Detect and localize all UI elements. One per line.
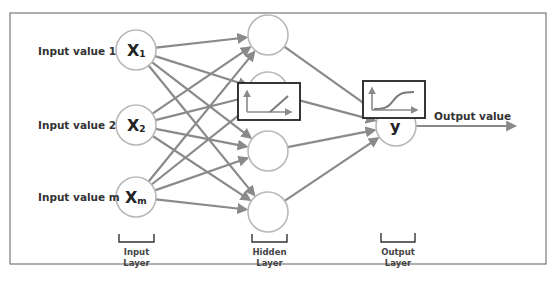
input-node-subscript: m [137, 196, 146, 206]
output-value-label: Output value [434, 110, 511, 122]
output-node-symbol: y [390, 117, 401, 136]
hidden-layer-bracket [252, 234, 287, 242]
input-label-2: Input value 2 [38, 119, 116, 131]
connection-input-1-hidden-1 [156, 38, 246, 48]
connection-hidden-3-output [288, 130, 375, 147]
connection-input-3-hidden-3 [155, 158, 247, 190]
input-layer-bracket [119, 234, 154, 242]
hidden-node-3 [248, 131, 288, 171]
output-layer-bracket [381, 233, 415, 242]
input-node-subscript: 2 [139, 124, 145, 134]
input-node-2: X2 [116, 105, 156, 145]
input-label-1: Input value 1 [38, 45, 116, 57]
connection-hidden-4-output [285, 138, 378, 201]
hidden-layer-label-2: Layer [256, 258, 283, 268]
rectifier-icon [238, 83, 300, 120]
output-layer-label-1: Output [381, 247, 415, 257]
input-node-1: X1 [116, 30, 156, 70]
hidden-layer-label-1: Hidden [252, 247, 286, 257]
input-layer-label-1: Input [124, 247, 149, 257]
neural-network-diagram: X1 X2 Xm Input value 1 Input value 2 Inp… [0, 0, 558, 281]
connection-input-3-hidden-4 [156, 199, 246, 209]
input-node-m: Xm [116, 177, 156, 217]
input-node-symbol: X [127, 116, 140, 135]
hidden-layer [248, 15, 288, 232]
hidden-node-4 [248, 192, 288, 232]
input-label-m: Input value m [38, 191, 120, 203]
output-layer-label-2: Layer [385, 258, 412, 268]
input-node-subscript: 1 [139, 49, 145, 59]
input-node-symbol: X [127, 41, 140, 60]
input-layer-label-2: Layer [123, 258, 150, 268]
hidden-node-1 [248, 15, 288, 55]
input-layer: X1 X2 Xm [116, 30, 156, 217]
connections [149, 38, 379, 210]
input-node-symbol: X [125, 188, 138, 207]
sigmoid-icon [363, 81, 425, 118]
